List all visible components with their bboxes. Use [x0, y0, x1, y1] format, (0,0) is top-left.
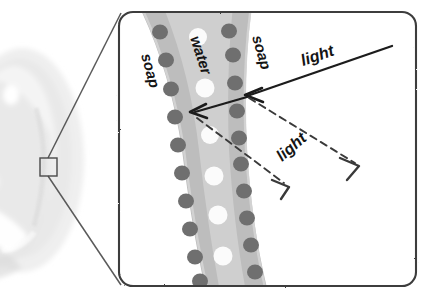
soap-bubble-light-diagram: soap water soap light [0, 0, 424, 301]
zoom-frame-contents: soap water soap light [119, 6, 416, 292]
diagram-canvas: soap water soap light [0, 0, 424, 301]
